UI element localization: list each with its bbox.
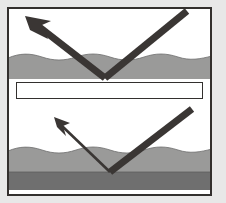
panel-divider [17,83,203,99]
bottom-panel-lower-layer [8,172,212,190]
panel-divider-box [17,83,203,99]
reflection-diagram [0,0,226,203]
diagram-canvas [0,0,226,203]
